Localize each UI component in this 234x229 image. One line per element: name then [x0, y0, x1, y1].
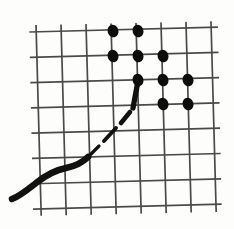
scatter-dots-layer	[106, 23, 195, 112]
dot-r4-c1	[156, 96, 170, 112]
grid-line-vertical-8	[211, 22, 216, 211]
trend-curve-solid	[12, 157, 88, 199]
grid-line-vertical-1	[36, 26, 41, 215]
dot-r2-c1	[106, 48, 120, 64]
dot-r1-c2	[131, 23, 145, 39]
grid-line-horizontal-5	[32, 128, 219, 133]
grid-line-horizontal-6	[33, 154, 220, 159]
diagram-svg	[0, 0, 234, 229]
grid-line-horizontal-8	[34, 204, 221, 209]
grid-line-vertical-7	[186, 23, 191, 212]
grid-line-vertical-3	[86, 25, 91, 214]
grid-line-vertical-2	[61, 25, 66, 214]
grid-line-horizontal-1	[30, 27, 217, 32]
dot-r4-c2	[181, 96, 195, 112]
dot-r3-c3	[181, 72, 195, 88]
grid-line-horizontal-7	[33, 179, 220, 184]
trend-curve-dash-3	[121, 112, 130, 123]
grid-line-horizontal-2	[31, 52, 218, 57]
dot-r2-c2	[131, 48, 145, 64]
dot-r1-c1	[106, 23, 120, 39]
figure-canvas	[0, 0, 234, 229]
dot-r3-c1	[131, 72, 145, 88]
dot-r3-c2	[156, 72, 170, 88]
dot-r2-c3	[156, 48, 170, 64]
